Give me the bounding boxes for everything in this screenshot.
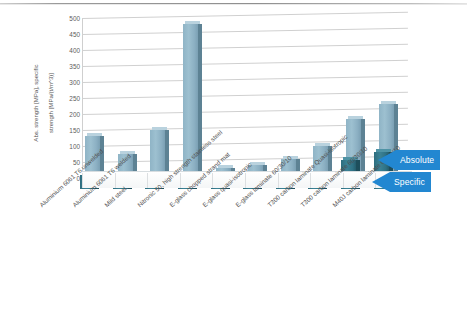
callout-specific: Specific [372, 172, 431, 192]
x-axis-ticks [82, 172, 412, 188]
bar-absolute [183, 24, 198, 178]
y-tick-label: 0 [56, 175, 80, 182]
chart-root: Abs. strength [MPa], specific strength [… [0, 0, 467, 313]
y-tick-label: 400 [56, 47, 80, 54]
y-tick-label: 300 [56, 79, 80, 86]
y-axis-title-line1: Abs. strength [MPa], specific [32, 64, 39, 141]
y-axis-title: Abs. strength [MPa], specific strength [… [34, 28, 52, 178]
callout-absolute-label: Absolute [396, 150, 440, 170]
y-tick-label: 450 [56, 31, 80, 38]
y-tick-label: 500 [56, 15, 80, 22]
x-tick [147, 173, 148, 188]
top-divider-shadow [0, 4, 467, 5]
y-tick-label: 350 [56, 63, 80, 70]
bar-side-face [198, 24, 202, 178]
y-tick-label: 50 [56, 159, 80, 166]
callout-specific-label: Specific [390, 172, 431, 192]
arrow-left-icon [372, 172, 390, 192]
bar-front-face [183, 24, 198, 178]
arrow-left-icon [378, 150, 396, 170]
y-tick-label: 150 [56, 127, 80, 134]
x-tick [343, 173, 344, 188]
x-tick [278, 173, 279, 188]
y-axis-tick-labels: 050100150200250300350400450500 [56, 18, 80, 188]
y-axis-title-line2: strength [MPa/(t/m^3)] [47, 64, 54, 141]
y-tick-label: 200 [56, 111, 80, 118]
bar-side-face [361, 119, 365, 178]
y-tick-label: 100 [56, 143, 80, 150]
x-tick [245, 173, 246, 188]
y-tick-label: 250 [56, 95, 80, 102]
x-tick [115, 173, 116, 188]
x-tick [212, 173, 213, 188]
x-tick [310, 173, 311, 188]
x-tick [82, 173, 83, 188]
x-tick [180, 173, 181, 188]
plot-area: 050100150200250300350400450500 [56, 18, 408, 188]
callout-absolute: Absolute [378, 150, 440, 170]
chart-floor [82, 171, 412, 188]
